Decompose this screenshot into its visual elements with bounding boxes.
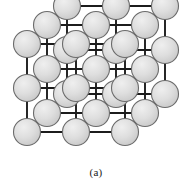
lattice-atom bbox=[34, 100, 61, 127]
crystal-lattice-diagram bbox=[0, 0, 192, 170]
figure-caption: (a) bbox=[0, 166, 192, 179]
lattice-atom bbox=[63, 119, 90, 146]
lattice-atom bbox=[63, 75, 90, 102]
lattice-atom bbox=[14, 31, 41, 58]
lattice-atom bbox=[83, 56, 110, 83]
lattice-atom bbox=[63, 31, 90, 58]
lattice-atom bbox=[112, 31, 139, 58]
lattice-atom bbox=[132, 12, 159, 39]
lattice-atom bbox=[34, 56, 61, 83]
lattice-atom bbox=[14, 75, 41, 102]
lattice-atom bbox=[83, 12, 110, 39]
figure-container: (a) bbox=[0, 0, 192, 188]
lattice-atom bbox=[83, 100, 110, 127]
atom-layer bbox=[14, 0, 179, 146]
lattice-atom bbox=[14, 119, 41, 146]
lattice-atom bbox=[34, 12, 61, 39]
lattice-atom bbox=[132, 56, 159, 83]
lattice-atom bbox=[112, 75, 139, 102]
lattice-atom bbox=[112, 119, 139, 146]
lattice-atom bbox=[152, 37, 179, 64]
lattice-atom bbox=[152, 81, 179, 108]
lattice-atom bbox=[132, 100, 159, 127]
